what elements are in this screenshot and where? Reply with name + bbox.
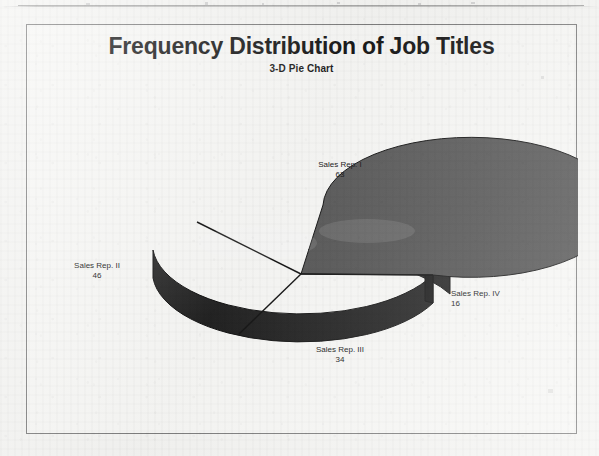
- scan-speck: [86, 3, 90, 5]
- slice-label-name: Sales Rep. IV: [451, 289, 500, 298]
- slice-label-sales-rep-iii: Sales Rep. III 34: [295, 345, 385, 365]
- slice-label-name: Sales Rep. II: [74, 261, 120, 270]
- slice-label-value: 16: [451, 299, 541, 309]
- scan-speck: [548, 389, 553, 393]
- page-top-rule-shadow: [0, 6, 599, 7]
- pie-chart: [27, 25, 578, 435]
- slice-label-sales-rep-i: Sales Rep. I 63: [295, 160, 385, 180]
- slice-label-name: Sales Rep. I: [318, 160, 362, 169]
- scan-speck: [471, 2, 475, 4]
- chart-frame: Frequency Distribution of Job Titles 3-D…: [26, 24, 577, 434]
- scanned-page: Frequency Distribution of Job Titles 3-D…: [0, 0, 599, 456]
- scan-speck: [418, 3, 421, 5]
- slice-label-sales-rep-iv: Sales Rep. IV 16: [451, 289, 541, 309]
- slice-label-value: 63: [295, 170, 385, 180]
- slice-label-name: Sales Rep. III: [316, 345, 364, 354]
- scan-speck: [337, 2, 340, 4]
- slice-label-value: 46: [52, 271, 142, 281]
- pie-chart-svg: [27, 25, 578, 435]
- pie-body-top: [301, 137, 578, 277]
- scan-speck: [205, 2, 208, 5]
- scan-speck: [541, 76, 544, 79]
- scan-speck: [262, 3, 264, 5]
- slice-label-value: 34: [295, 355, 385, 365]
- slice-label-sales-rep-ii: Sales Rep. II 46: [52, 261, 142, 281]
